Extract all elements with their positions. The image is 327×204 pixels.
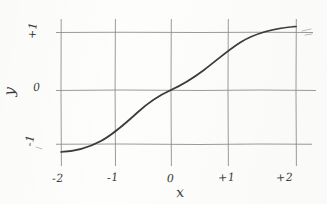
y-tick-label-minus1: -1 — [23, 134, 37, 147]
x-tick-label-plus2: +2 — [276, 171, 294, 185]
gridline-y-zero — [56, 90, 316, 91]
y-tick-label-plus1: +1 — [26, 21, 40, 39]
sketch-canvas: y 0 +1 -1 -2 -1 0 +1 +2 x — [0, 0, 327, 204]
stray-mark-right-2 — [305, 34, 312, 35]
x-tick-label-minus2: -2 — [52, 172, 64, 186]
y-tick-label-0: 0 — [32, 81, 41, 95]
x-tick-label-0: 0 — [167, 172, 175, 185]
x-tick-label-plus1: +1 — [218, 171, 236, 185]
stray-mark-left — [36, 147, 42, 149]
sigmoid-curve-ghost — [62, 26, 295, 151]
x-axis-label: x — [175, 184, 185, 201]
x-tick-label-minus1: -1 — [107, 171, 120, 185]
sigmoid-curve — [61, 27, 296, 153]
stray-mark-right — [302, 29, 311, 31]
